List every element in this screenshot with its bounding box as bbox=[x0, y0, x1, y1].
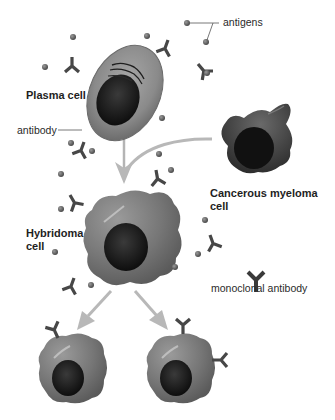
antigen-icon bbox=[144, 33, 150, 39]
antibody-label: antibody bbox=[17, 124, 57, 136]
diagram-artwork bbox=[0, 0, 335, 420]
antigen-icon bbox=[88, 282, 94, 288]
antigen-icon bbox=[203, 39, 209, 45]
monoclonal-antibody-label: monoclonal antibody bbox=[211, 282, 307, 294]
antibody-icon bbox=[72, 140, 90, 159]
antibody-icon bbox=[156, 38, 174, 57]
antigen-icon bbox=[184, 20, 190, 26]
antigen-icon bbox=[68, 140, 74, 146]
antibody-icon bbox=[149, 169, 165, 186]
antigen-icon bbox=[42, 64, 48, 70]
antigen-icon bbox=[52, 249, 58, 255]
attached-antibody-icon bbox=[176, 319, 190, 334]
clone-cell-right bbox=[147, 319, 227, 403]
antigen-icon bbox=[204, 70, 210, 76]
fusion-arrow-from-myeloma bbox=[128, 139, 212, 168]
hybridoma-cell-label-line1: Hybridoma bbox=[26, 227, 83, 239]
antibody-icon bbox=[65, 57, 79, 72]
antibody-icon bbox=[203, 233, 221, 252]
division-arrow-right bbox=[135, 291, 168, 330]
antigen-icon bbox=[156, 151, 162, 157]
division-arrow-left bbox=[77, 291, 111, 330]
antibody-icon bbox=[193, 60, 213, 80]
antigen-icon bbox=[195, 251, 201, 257]
antigen-icon bbox=[202, 217, 208, 223]
antigen-icon bbox=[172, 264, 178, 270]
antigens-label: antigens bbox=[223, 16, 263, 28]
myeloma-cell-label-line1: Cancerous myeloma bbox=[210, 187, 318, 199]
antigen-icon bbox=[168, 167, 174, 173]
antigen-icon bbox=[58, 171, 64, 177]
hybridoma-cell bbox=[83, 190, 181, 285]
plasma-cell-label: Plasma cell bbox=[26, 89, 86, 101]
myeloma-cell-label-line2: cell bbox=[210, 200, 228, 212]
hybridoma-diagram: antigens Plasma cell antibody Cancerous … bbox=[0, 0, 335, 420]
antigen-icon bbox=[58, 206, 64, 212]
antigen-icon bbox=[89, 148, 95, 154]
antibody-icon bbox=[62, 276, 80, 295]
antigen-icon bbox=[159, 115, 165, 121]
antibody-icon bbox=[64, 192, 84, 212]
antigen-icon bbox=[70, 34, 76, 40]
clone-cell-left bbox=[39, 321, 107, 403]
myeloma-cell bbox=[221, 104, 292, 174]
hybridoma-cell-label-line2: cell bbox=[26, 240, 44, 252]
